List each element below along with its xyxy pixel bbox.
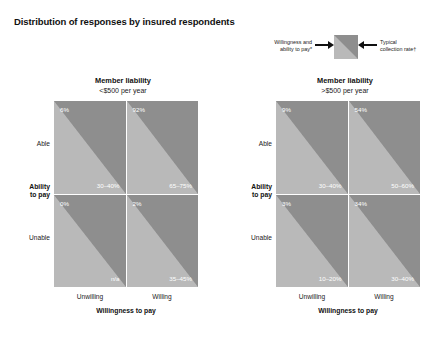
cell-value-willingness-ability: 54% bbox=[355, 106, 367, 113]
y-tick-able: Able bbox=[6, 140, 50, 147]
arrow-head-icon bbox=[358, 41, 364, 49]
matrix-cell-able-willing[interactable]: 54% 50–60% bbox=[349, 101, 421, 194]
cell-value-willingness-ability: 92% bbox=[133, 106, 145, 113]
x-tick-willing: Willing bbox=[126, 293, 198, 300]
cell-diagonal-icon bbox=[276, 195, 348, 288]
matrix-grid: 6% 30–40% 92% 65–75% 0% n/a 2% 35–45% bbox=[54, 101, 198, 287]
y-axis-title-line1: Ability bbox=[6, 183, 50, 191]
matrix-cell-able-unwilling[interactable]: 9% 30–40% bbox=[276, 101, 348, 194]
cell-value-willingness-ability: 6% bbox=[60, 106, 69, 113]
page-title: Distribution of responses by insured res… bbox=[14, 16, 235, 27]
cell-diagonal-icon bbox=[276, 101, 348, 194]
cell-diagonal-icon bbox=[54, 101, 126, 194]
legend-label-collection-rate-line2: collection rate† bbox=[380, 46, 436, 53]
legend-label-willingness-ability: Willingness and ability to pay* bbox=[258, 39, 312, 53]
legend-label-willingness-ability-line2: ability to pay* bbox=[258, 46, 312, 53]
matrix-cell-unable-willing[interactable]: 34% 30–40% bbox=[349, 195, 421, 288]
y-axis-title: Ability to pay bbox=[6, 183, 50, 200]
cell-diagonal-icon bbox=[349, 195, 421, 288]
y-axis-title-line1: Ability bbox=[228, 183, 272, 191]
cell-value-collection-rate: 35–45% bbox=[169, 275, 192, 282]
panel-header-line2: >$500 per year bbox=[270, 87, 420, 94]
legend: Willingness and ability to pay* Typical … bbox=[258, 30, 434, 64]
y-tick-unable: Unable bbox=[6, 234, 50, 241]
legend-arrow-right-icon bbox=[363, 44, 377, 46]
cell-diagonal-icon bbox=[127, 101, 199, 194]
y-axis-title: Ability to pay bbox=[228, 183, 272, 200]
legend-label-collection-rate: Typical collection rate† bbox=[380, 39, 436, 53]
matrix-cell-able-unwilling[interactable]: 6% 30–40% bbox=[54, 101, 126, 194]
x-axis-title: Willingness to pay bbox=[54, 307, 198, 314]
matrix-cell-unable-unwilling[interactable]: 0% n/a bbox=[54, 195, 126, 288]
y-tick-able: Able bbox=[228, 140, 272, 147]
panel-header-line1: Member liability bbox=[270, 76, 420, 85]
cell-value-willingness-ability: 2% bbox=[133, 200, 142, 207]
panel-header-line2: <$500 per year bbox=[48, 87, 198, 94]
cell-value-collection-rate: n/a bbox=[111, 275, 120, 282]
panel-header: Member liability <$500 per year bbox=[48, 76, 198, 94]
legend-swatch-diagonal-icon bbox=[334, 35, 358, 59]
cell-value-collection-rate: 50–60% bbox=[391, 182, 414, 189]
cell-value-collection-rate: 65–75% bbox=[169, 182, 192, 189]
legend-arrow-left-icon bbox=[315, 44, 329, 46]
cell-value-willingness-ability: 34% bbox=[355, 200, 367, 207]
cell-value-willingness-ability: 0% bbox=[60, 200, 69, 207]
x-axis-title: Willingness to pay bbox=[276, 307, 420, 314]
matrix-cell-able-willing[interactable]: 92% 65–75% bbox=[127, 101, 199, 194]
cell-value-willingness-ability: 9% bbox=[282, 106, 291, 113]
cell-diagonal-icon bbox=[349, 101, 421, 194]
x-tick-unwilling: Unwilling bbox=[276, 293, 348, 300]
legend-label-willingness-ability-line1: Willingness and bbox=[258, 39, 312, 46]
cell-value-collection-rate: 30–40% bbox=[319, 182, 342, 189]
panel-header-line1: Member liability bbox=[48, 76, 198, 85]
legend-swatch-icon bbox=[334, 35, 358, 59]
matrix-cell-unable-willing[interactable]: 2% 35–45% bbox=[127, 195, 199, 288]
cell-value-willingness-ability: 3% bbox=[282, 200, 291, 207]
panel-header: Member liability >$500 per year bbox=[270, 76, 420, 94]
matrix-grid: 9% 30–40% 54% 50–60% 3% 10–20% 34% 30–40… bbox=[276, 101, 420, 287]
y-axis-title-line2: to pay bbox=[6, 191, 50, 199]
x-tick-willing: Willing bbox=[348, 293, 420, 300]
cell-value-collection-rate: 10–20% bbox=[319, 275, 342, 282]
cell-diagonal-icon bbox=[54, 195, 126, 288]
y-tick-unable: Unable bbox=[228, 234, 272, 241]
legend-label-collection-rate-line1: Typical bbox=[380, 39, 436, 46]
cell-diagonal-icon bbox=[127, 195, 199, 288]
cell-value-collection-rate: 30–40% bbox=[97, 182, 120, 189]
matrix-cell-unable-unwilling[interactable]: 3% 10–20% bbox=[276, 195, 348, 288]
x-tick-unwilling: Unwilling bbox=[54, 293, 126, 300]
y-axis-title-line2: to pay bbox=[228, 191, 272, 199]
cell-value-collection-rate: 30–40% bbox=[391, 275, 414, 282]
